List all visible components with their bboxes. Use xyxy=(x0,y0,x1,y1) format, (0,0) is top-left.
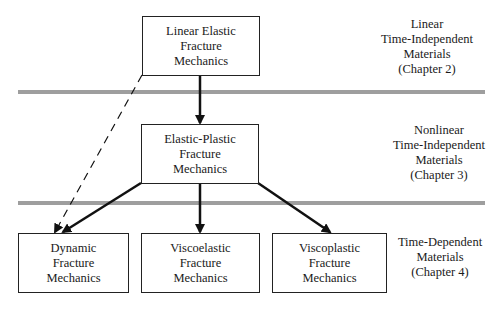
node-line: Linear Elastic xyxy=(166,24,236,39)
region-line: (Chapter 4) xyxy=(390,265,490,280)
node-line: Elastic-Plastic xyxy=(164,132,236,147)
region-line: Materials xyxy=(384,153,494,168)
region-line: Linear xyxy=(372,17,482,32)
fracture-mechanics-diagram: Linear Elastic Fracture Mechanics Elasti… xyxy=(0,0,500,311)
node-line: Viscoplastic xyxy=(299,241,360,256)
arrow-epfm-to-dynamic xyxy=(63,183,141,232)
region-line: (Chapter 3) xyxy=(384,168,494,183)
region-line: (Chapter 2) xyxy=(372,62,482,77)
node-line: Mechanics xyxy=(302,271,356,286)
region-line: Materials xyxy=(390,250,490,265)
region-line: Time-Independent xyxy=(384,138,494,153)
region-label-nonlinear-time-independent: Nonlinear Time-Independent Materials (Ch… xyxy=(384,123,494,183)
node-line: Mechanics xyxy=(173,271,227,286)
node-elastic-plastic-fracture-mechanics: Elastic-Plastic Fracture Mechanics xyxy=(141,124,259,184)
node-line: Dynamic xyxy=(51,241,97,256)
node-dynamic-fracture-mechanics: Dynamic Fracture Mechanics xyxy=(18,233,129,293)
node-line: Fracture xyxy=(179,147,221,162)
region-label-time-dependent: Time-Dependent Materials (Chapter 4) xyxy=(390,235,490,280)
region-line: Materials xyxy=(372,47,482,62)
node-viscoelastic-fracture-mechanics: Viscoelastic Fracture Mechanics xyxy=(141,233,260,293)
node-line: Fracture xyxy=(180,39,222,54)
node-linear-elastic-fracture-mechanics: Linear Elastic Fracture Mechanics xyxy=(142,16,260,76)
node-viscoplastic-fracture-mechanics: Viscoplastic Fracture Mechanics xyxy=(272,233,387,293)
region-line: Time-Independent xyxy=(372,32,482,47)
node-line: Mechanics xyxy=(46,271,100,286)
node-line: Fracture xyxy=(53,256,95,271)
arrow-epfm-to-viscoplastic xyxy=(258,183,330,232)
node-line: Fracture xyxy=(309,256,351,271)
node-line: Fracture xyxy=(180,256,222,271)
region-line: Nonlinear xyxy=(384,123,494,138)
region-line: Time-Dependent xyxy=(390,235,490,250)
node-line: Viscoelastic xyxy=(170,241,230,256)
node-line: Mechanics xyxy=(174,54,228,69)
node-line: Mechanics xyxy=(173,162,227,177)
region-label-linear-time-independent: Linear Time-Independent Materials (Chapt… xyxy=(372,17,482,77)
